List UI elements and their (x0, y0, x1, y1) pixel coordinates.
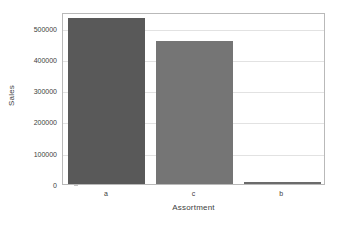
x-axis-tick-label: b (279, 190, 283, 197)
y-axis-title-text: Sales (7, 84, 16, 105)
x-axis-title: Assortment (62, 203, 325, 212)
y-axis-tick-label: 400000 (34, 56, 57, 63)
bar (244, 182, 321, 184)
y-axis-tick-label: 500000 (34, 25, 57, 32)
y-axis-tick-label: 100000 (34, 150, 57, 157)
bar-chart: Sales 0100000200000300000400000500000 As… (0, 0, 345, 225)
y-axis-tick-label: 300000 (34, 88, 57, 95)
y-axis-tick-labels: 0100000200000300000400000500000 (18, 0, 60, 225)
x-axis-tick-label: c (192, 190, 196, 197)
plot-area (62, 13, 325, 185)
y-axis-tick-label: 200000 (34, 119, 57, 126)
y-axis-tick-label: 0 (53, 182, 57, 189)
bar (156, 41, 233, 184)
x-axis-tick-label: a (104, 190, 108, 197)
bar (68, 18, 145, 184)
